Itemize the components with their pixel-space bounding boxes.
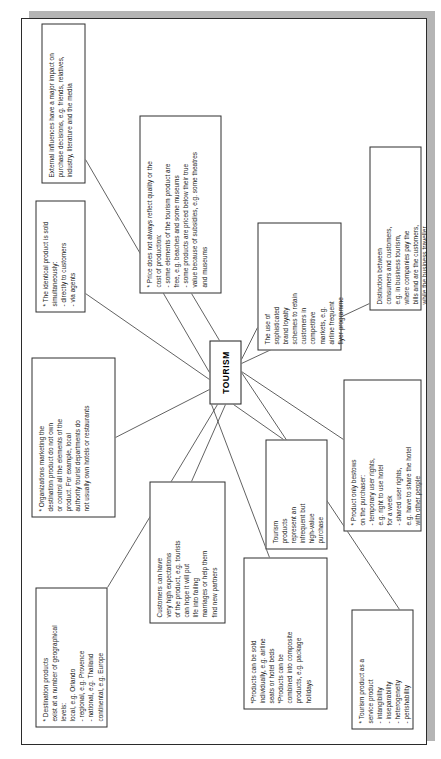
edge-center-customers (191, 404, 225, 481)
edge-center-price (191, 293, 219, 340)
node-destination-products[interactable]: * Destination products exist at a number… (35, 587, 107, 727)
node-identical-product[interactable]: * The identical product is sold simultan… (35, 200, 85, 312)
node-tourism-center[interactable]: TOURISM (209, 340, 241, 404)
page-root: * Destination products exist at a number… (0, 0, 441, 759)
edge-center-bestows (241, 371, 343, 439)
edge-center-tourismprod (233, 404, 283, 439)
edge-center-organizations (115, 389, 209, 437)
node-external-influences[interactable]: External influences have a major impact … (41, 23, 85, 183)
node-organizations-marketing[interactable]: * Organizations marketing the destinatio… (31, 357, 115, 517)
mind-map-canvas: * Destination products exist at a number… (21, 18, 427, 745)
node-brand-loyalty[interactable]: The use of sophisticated brand loyalty s… (257, 222, 341, 350)
node-price-quality[interactable]: * Price does not always reflect quality … (139, 115, 221, 293)
edge-center-loyalty (241, 327, 257, 359)
diagram-viewport: * Destination products exist at a number… (21, 18, 427, 745)
node-products-sold[interactable]: *Products can be sold individually, e.g.… (243, 557, 327, 709)
node-customer-expectations[interactable]: Customers can have very high expectation… (149, 481, 225, 623)
node-service-product[interactable]: * Tourism product as a service product -… (351, 609, 413, 729)
node-infrequent-purchase[interactable]: Tourism products represent an infrequent… (265, 439, 327, 549)
node-user-rights[interactable]: * Product only bestows on the purchaser:… (343, 379, 421, 531)
node-consumers-customers[interactable]: Distinction between consumers and custom… (369, 146, 421, 310)
